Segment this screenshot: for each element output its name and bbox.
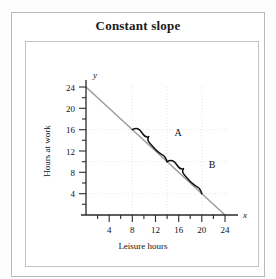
x-axis-symbol: x	[242, 210, 247, 220]
brace-label-b: B	[209, 159, 216, 170]
page-title: Constant slope	[11, 18, 265, 34]
x-tick-label-24: 24	[221, 225, 231, 235]
y-tick-label-24: 24	[66, 83, 76, 93]
budget-constraint-line	[86, 87, 225, 215]
page-bleed-text: · · · · · ·	[0, 0, 276, 11]
x-axis-title: Leisure hours	[118, 241, 168, 251]
y-tick-label-8: 8	[71, 168, 76, 178]
y-axis-ticks	[79, 87, 86, 204]
y-tick-label-4: 4	[71, 189, 76, 199]
chart-svg: 24 20 16 12 8 4 4 8 12 16 20 24 y x Leis…	[26, 42, 260, 268]
y-axis-symbol: y	[92, 70, 97, 80]
figure-container: · · · · · · Constant slope	[0, 0, 276, 279]
x-tick-label-4: 4	[107, 225, 112, 235]
x-tick-label-12: 12	[151, 225, 160, 235]
x-tick-label-8: 8	[130, 225, 135, 235]
y-tick-label-16: 16	[66, 125, 76, 135]
y-tick-label-20: 20	[66, 104, 76, 114]
x-tick-label-16: 16	[174, 225, 184, 235]
y-axis-title: Hours at work	[42, 125, 52, 177]
plot-area: 24 20 16 12 8 4 4 8 12 16 20 24 y x Leis…	[25, 41, 259, 267]
brace-label-a: A	[174, 127, 182, 138]
x-tick-label-20: 20	[197, 225, 207, 235]
y-tick-label-12: 12	[66, 147, 75, 157]
x-axis-ticks	[98, 215, 225, 222]
